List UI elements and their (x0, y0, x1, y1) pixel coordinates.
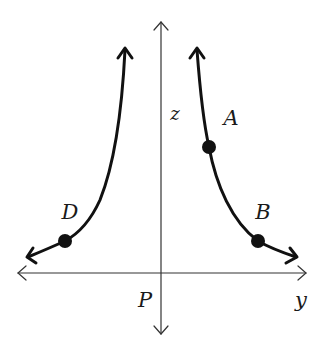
point-d-label: D (62, 202, 79, 223)
diagram-canvas (0, 0, 322, 346)
diagram: z y P A B D (0, 0, 322, 346)
point-a (202, 140, 216, 154)
right-curve-branch (190, 48, 297, 263)
point-b (251, 234, 265, 248)
point-a-label: A (223, 108, 238, 129)
horizontal-axis (18, 266, 306, 280)
vertical-axis-label: z (170, 105, 179, 123)
left-curve-branch (27, 48, 132, 263)
point-d (58, 234, 72, 248)
origin-label: P (138, 290, 152, 311)
horizontal-axis-label: y (295, 290, 307, 311)
vertical-axis (154, 22, 168, 334)
point-b-label: B (255, 202, 270, 223)
